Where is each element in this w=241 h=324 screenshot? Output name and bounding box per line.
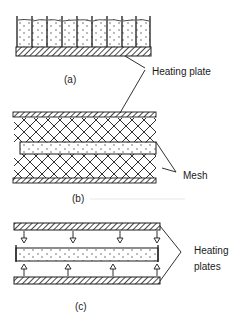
heating-plate-c-bottom xyxy=(14,277,160,284)
heating-plate-a xyxy=(16,47,151,56)
panel-b xyxy=(13,112,185,199)
product-c xyxy=(16,248,158,261)
heat-arrows-down xyxy=(21,231,160,243)
trays xyxy=(17,16,150,47)
leader-line-a xyxy=(125,56,145,68)
label-mesh: Mesh xyxy=(183,170,207,182)
heating-plate-c-top xyxy=(14,223,160,230)
heat-arrows-up xyxy=(21,264,160,276)
caption-c: (c) xyxy=(75,301,87,313)
product-b xyxy=(20,142,156,154)
panel-a xyxy=(16,16,151,113)
panel-c xyxy=(14,223,181,284)
label-heating-plates-1: Heating xyxy=(194,245,228,257)
mesh-leader-lines xyxy=(156,142,176,172)
label-heating-plates-2: plates xyxy=(194,261,221,273)
label-heating-plate: Heating plate xyxy=(152,66,211,78)
diagram-canvas xyxy=(0,0,241,324)
heating-plate-b-top xyxy=(13,112,156,117)
mesh-top xyxy=(14,118,156,142)
mesh-bottom xyxy=(14,154,156,178)
caption-b: (b) xyxy=(72,193,84,205)
leader-line-b xyxy=(120,70,145,113)
caption-a: (a) xyxy=(64,74,76,86)
heating-plate-b-bottom xyxy=(13,178,156,183)
heating-plates-leader xyxy=(160,226,181,281)
